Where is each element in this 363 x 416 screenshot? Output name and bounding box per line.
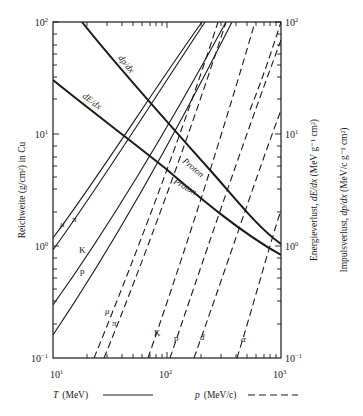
p-solid-label: p	[80, 266, 85, 276]
dedx-label: dE/dx	[81, 91, 104, 112]
k-dashed-label: K	[154, 328, 161, 338]
range-mu-p-curve	[94, 22, 218, 358]
pi-dashed-label: π	[112, 318, 117, 328]
p-dashed-label: p	[174, 333, 179, 343]
dpdx-label: dp/dx	[116, 53, 136, 75]
svg-text:101: 101	[35, 128, 48, 140]
range-K-p-curve	[148, 22, 255, 358]
alpha-dashed-label: α	[241, 334, 246, 344]
legend-solid-label: T(MeV)	[53, 390, 88, 401]
range-pi-p-curve	[104, 22, 226, 358]
range-mu-T-curve	[53, 22, 202, 238]
right-y-ticks	[275, 22, 281, 324]
range-K-T-curve	[53, 22, 226, 305]
proton-label-dpdx: Proton	[180, 155, 206, 179]
left-y-axis-title: Reichweite (g/cm²) in Cu	[17, 142, 28, 239]
right-y-axis-title-energy: Energieverlust, dE/dx (MeV g⁻¹ cm²)	[309, 119, 320, 261]
d-dashed-label: d	[200, 332, 205, 342]
svg-text:100: 100	[285, 240, 298, 252]
svg-text:10−1: 10−1	[31, 352, 48, 364]
mu-solid-label: μ	[59, 219, 65, 229]
k-solid-label: K	[79, 245, 86, 255]
svg-text:101: 101	[50, 368, 63, 380]
dedx-proton-curve	[53, 80, 281, 255]
svg-text:100: 100	[35, 240, 48, 252]
range-p-p-curve	[170, 40, 281, 358]
range-energy-loss-chart: 102 101 100 10−1 102 101 100 10−1 101 10…	[0, 0, 363, 416]
right-y-axis-title-momentum: Impulsverlust, dp/dx (MeV/c g⁻¹ cm²)	[339, 128, 350, 273]
svg-text:102: 102	[35, 16, 48, 28]
mu-dashed-label: μ	[104, 306, 110, 316]
x-tick-labels: 101 102 103	[50, 368, 286, 380]
range-p-T-curve	[53, 22, 232, 335]
left-y-tick-labels: 102 101 100 10−1	[31, 16, 48, 364]
pi-solid-label: π	[72, 214, 77, 224]
range-extra-p-curve	[250, 22, 281, 110]
legend-dashed-label: p(MeV/c)	[194, 390, 236, 401]
svg-text:102: 102	[285, 16, 298, 28]
svg-text:103: 103	[273, 368, 286, 380]
legend: T(MeV) p(MeV/c)	[53, 390, 298, 401]
svg-text:10−1: 10−1	[285, 352, 302, 364]
right-y-tick-labels: 102 101 100 10−1	[285, 16, 302, 364]
top-x-ticks	[87, 22, 276, 28]
left-y-ticks	[53, 22, 59, 324]
svg-text:101: 101	[285, 128, 298, 140]
svg-text:102: 102	[159, 368, 172, 380]
bottom-x-ticks	[87, 352, 276, 358]
dpdx-proton-curve	[82, 22, 281, 244]
proton-label-dedx: Proton	[171, 176, 199, 198]
